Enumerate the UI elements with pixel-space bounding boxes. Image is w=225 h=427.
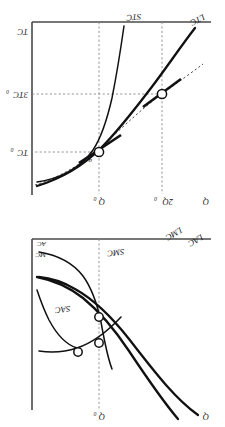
label-q-axis-bottom: Q <box>203 197 209 207</box>
marker-point-a <box>94 147 103 156</box>
svg-text:TC: TC <box>17 148 28 158</box>
label-sac-group: SAC <box>54 304 70 316</box>
curve-ltc <box>37 28 195 186</box>
marker-lac-lmc-intersection <box>95 339 103 347</box>
marker-sac-lac-tangency <box>74 348 82 356</box>
label-stc-group: STC <box>126 12 142 23</box>
label-tc-axis: TC <box>17 27 28 37</box>
svg-text:0: 0 <box>94 411 97 417</box>
curve-sac-upturn <box>37 290 77 348</box>
label-point-a: a <box>88 157 92 165</box>
svg-text:0: 0 <box>11 147 14 153</box>
label-lac-group: LAC <box>186 232 206 249</box>
curve-lac <box>39 277 198 415</box>
cost-curves-figure: Q Q 0 AC MC LAC LMC SMC SAC <box>0 0 225 427</box>
label-sac: SAC <box>54 304 70 316</box>
label-tc0: TC 0 <box>11 147 29 159</box>
label-q-axis-top: Q <box>203 412 209 422</box>
label-smc-group: SMC <box>107 247 125 259</box>
curve-stc <box>37 26 124 182</box>
svg-text:2Q: 2Q <box>163 197 173 207</box>
label-lmc-group: LMC <box>164 225 185 243</box>
label-stc: STC <box>126 12 142 23</box>
total-cost-panel: a Q 2Q 0 Q 0 TC 0 3TC 0 TC LTC <box>0 0 225 212</box>
label-mc-axis: MC <box>35 251 47 259</box>
label-q0-top: Q 0 <box>94 411 106 423</box>
svg-text:Q: Q <box>99 412 105 422</box>
curve-lmc <box>37 277 178 419</box>
marker-smc-lmc-crossing <box>95 313 103 321</box>
svg-text:0: 0 <box>154 196 157 202</box>
svg-text:Q: Q <box>99 197 105 207</box>
label-ltc-group: LTC <box>189 12 208 28</box>
label-ltc: LTC <box>189 12 208 28</box>
label-3tc0: 3TC 0 <box>6 89 29 101</box>
per-unit-cost-plot: Q Q 0 AC MC LAC LMC SMC SAC <box>0 212 225 427</box>
label-q0-bottom: Q 0 <box>94 196 106 208</box>
total-cost-plot: a Q 2Q 0 Q 0 TC 0 3TC 0 TC LTC <box>0 0 225 212</box>
label-lmc: LMC <box>164 225 185 243</box>
svg-text:3TC: 3TC <box>13 90 29 100</box>
label-2q0: 2Q 0 <box>154 196 173 208</box>
label-smc: SMC <box>107 247 125 259</box>
per-unit-cost-panel: Q Q 0 AC MC LAC LMC SMC SAC <box>0 212 225 427</box>
label-ac-axis: AC <box>37 240 47 248</box>
marker-half-scale <box>157 89 166 98</box>
svg-text:0: 0 <box>94 196 97 202</box>
label-lac: LAC <box>186 232 206 249</box>
svg-text:0: 0 <box>6 89 9 95</box>
